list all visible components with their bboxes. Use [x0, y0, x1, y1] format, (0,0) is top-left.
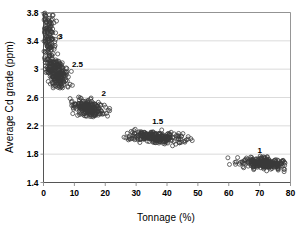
- data-point: [236, 156, 240, 160]
- x-tick-label: 10: [70, 188, 80, 198]
- y-tick-label: 3.8: [27, 8, 39, 18]
- data-point: [242, 166, 246, 170]
- data-point: [226, 156, 230, 160]
- y-tick-label: 1.4: [27, 178, 39, 188]
- data-point: [125, 131, 129, 135]
- data-point: [69, 69, 73, 73]
- y-tick-labels: 1.41.82.22.633.43.8: [27, 8, 39, 188]
- y-axis-title: Average Cd grade (ppm): [4, 41, 15, 153]
- cluster-label: 1: [257, 146, 262, 155]
- gridline-group: [44, 13, 291, 155]
- y-tick-label: 1.8: [27, 149, 39, 159]
- data-point: [171, 144, 175, 148]
- data-point: [227, 162, 231, 166]
- data-point: [56, 52, 60, 56]
- x-axis-title: Tonnage (%): [137, 212, 195, 223]
- plot-canvas: 1.41.82.22.633.43.8 01020304050607080 32…: [0, 0, 307, 227]
- x-tick-label: 80: [286, 188, 296, 198]
- x-tick-label: 70: [255, 188, 265, 198]
- y-tick-label: 3: [34, 64, 39, 74]
- x-tick-label: 50: [193, 188, 203, 198]
- cluster-label: 3: [58, 32, 63, 41]
- x-tick-label: 60: [224, 188, 234, 198]
- x-tick-label: 20: [101, 188, 111, 198]
- x-tick-label: 40: [162, 188, 172, 198]
- y-tick-label: 3.4: [27, 36, 39, 46]
- data-points: [42, 11, 287, 174]
- scatter-chart: 1.41.82.22.633.43.8 01020304050607080 32…: [0, 0, 307, 227]
- cluster-label: 1.5: [152, 117, 164, 126]
- y-tick-label: 2.2: [27, 121, 39, 131]
- cluster-label: 2: [101, 89, 106, 98]
- data-point: [71, 112, 75, 116]
- y-tick-label: 2.6: [27, 93, 39, 103]
- x-tick-label: 30: [131, 188, 141, 198]
- cluster-label: 2.5: [72, 60, 84, 69]
- x-tick-labels: 01020304050607080: [41, 188, 295, 198]
- x-tick-label: 0: [41, 188, 46, 198]
